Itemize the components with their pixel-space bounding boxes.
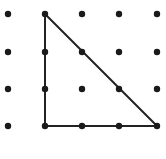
- grid-dot: [154, 11, 160, 17]
- grid-dot: [5, 49, 11, 55]
- grid-dot: [42, 49, 48, 55]
- grid-dot: [79, 49, 85, 55]
- grid-dot: [42, 86, 48, 92]
- triangle-outline: [45, 14, 157, 126]
- right-triangle: [45, 14, 157, 126]
- grid-dot: [5, 86, 11, 92]
- grid-dot: [79, 123, 85, 129]
- dot-grid-diagram: [0, 0, 166, 159]
- grid-dot: [154, 49, 160, 55]
- grid-dot: [79, 86, 85, 92]
- grid-dot: [79, 11, 85, 17]
- dot-grid: [5, 11, 160, 129]
- grid-dot: [5, 123, 11, 129]
- grid-dot: [42, 11, 48, 17]
- grid-dot: [116, 86, 122, 92]
- grid-dot: [5, 11, 11, 17]
- grid-dot: [116, 11, 122, 17]
- grid-dot: [116, 49, 122, 55]
- grid-dot: [154, 86, 160, 92]
- grid-dot: [42, 123, 48, 129]
- grid-dot: [154, 123, 160, 129]
- grid-dot: [116, 123, 122, 129]
